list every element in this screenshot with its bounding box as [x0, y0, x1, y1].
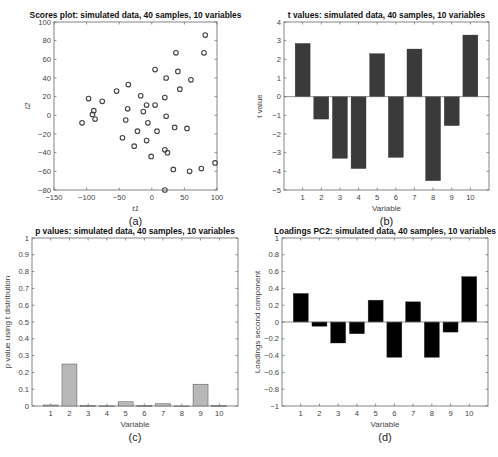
x-tick-label: 1: [299, 409, 303, 418]
y-tick-label: 0: [275, 318, 279, 327]
bar: [424, 322, 439, 357]
y-tick-label: 0.6: [268, 267, 279, 276]
y-tick-label: −0.4: [264, 351, 279, 360]
x-tick-label: 9: [448, 409, 452, 418]
chart-title: Loadings PC2: simulated data, 40 samples…: [274, 226, 496, 236]
x-tick-label: 8: [430, 409, 434, 418]
bar: [462, 277, 477, 322]
y-axis-label: Loadings second component: [253, 270, 262, 373]
x-tick-label: 6: [392, 409, 396, 418]
bar: [368, 300, 383, 322]
y-tick-label: 0.8: [268, 250, 279, 259]
loadings-panel: Loadings PC2: simulated data, 40 samples…: [0, 0, 498, 457]
y-tick-label: 0.4: [268, 284, 279, 293]
x-tick-label: 5: [374, 409, 378, 418]
loadings-bar-chart: Loadings PC2: simulated data, 40 samples…: [0, 0, 498, 457]
y-tick-label: −0.8: [264, 385, 279, 394]
bar: [443, 322, 458, 332]
y-tick-label: −0.6: [264, 368, 279, 377]
bar: [349, 322, 364, 334]
bar: [406, 302, 421, 322]
x-tick-label: 4: [355, 409, 359, 418]
x-tick-label: 3: [336, 409, 340, 418]
bar: [331, 322, 346, 343]
x-axis-label: Variable: [371, 420, 400, 429]
x-tick-label: 10: [465, 409, 473, 418]
bar: [387, 322, 402, 357]
y-tick-label: 1: [275, 234, 279, 243]
x-tick-label: 7: [411, 409, 415, 418]
bar: [293, 293, 308, 322]
y-tick-label: 0.2: [268, 301, 279, 310]
x-tick-label: 2: [317, 409, 321, 418]
panel-caption: (d): [378, 431, 391, 443]
y-tick-label: −0.2: [264, 334, 279, 343]
bar: [312, 322, 327, 326]
y-tick-label: −1: [270, 402, 279, 411]
